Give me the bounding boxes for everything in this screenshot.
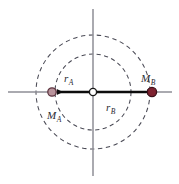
label-mass-a-sub: A [56, 115, 62, 124]
two-body-diagram: rA rB MA MB [0, 0, 179, 184]
label-mass-a-base: M [46, 109, 57, 121]
label-radius-b-sub: B [111, 107, 116, 116]
mass-a-marker [48, 88, 56, 96]
label-mass-b-base: M [140, 72, 151, 84]
barycenter-origin-marker [89, 88, 96, 95]
figure-container: rA rB MA MB [0, 0, 179, 184]
mass-b-marker [147, 87, 156, 96]
label-radius-a-sub: A [68, 78, 74, 87]
label-mass-b-sub: B [151, 78, 156, 87]
